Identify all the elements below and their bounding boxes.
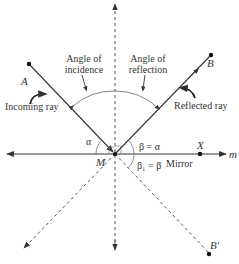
reflection-diagram [0,0,239,264]
incoming-ray-label: Incoming ray [5,101,59,112]
beta1-arc [128,154,134,168]
reflection-line1: Angle of [124,53,172,64]
alpha-arc [96,140,102,154]
point-m [113,152,117,156]
beta-arc [128,140,134,154]
label-b: B [207,58,214,69]
label-m-axis: m [229,149,237,160]
angle-of-reflection-label: Angle of reflection [124,53,172,75]
mirror-label: Mirror [166,158,193,169]
reflection-line2: reflection [124,64,172,75]
reflection-pointer [143,75,145,89]
reflected-ray-label: Reflected ray [174,100,228,111]
angle-arc-incidence [72,91,115,107]
label-m: M [96,157,105,168]
reflected-ray-pointer [183,88,195,98]
incidence-line1: Angle of [60,53,108,64]
beta-eq-alpha-label: β = α [139,141,160,152]
angle-of-incidence-label: Angle of incidence [60,53,108,75]
label-b-prime: B' [210,240,219,251]
alpha-label: α [86,136,91,147]
point-a [27,62,31,66]
label-a: A [21,76,28,87]
extension-incoming [24,154,115,248]
reflected-ray-arrow [190,70,197,77]
beta1-eq-beta-label: β₁ = β [137,160,161,171]
point-x [198,152,202,156]
incidence-pointer [82,75,86,89]
incidence-line2: incidence [60,64,108,75]
point-b-prime [207,252,211,256]
angle-arc-reflection [115,91,158,108]
label-x: X [197,140,204,151]
extension-reflected [115,154,209,253]
